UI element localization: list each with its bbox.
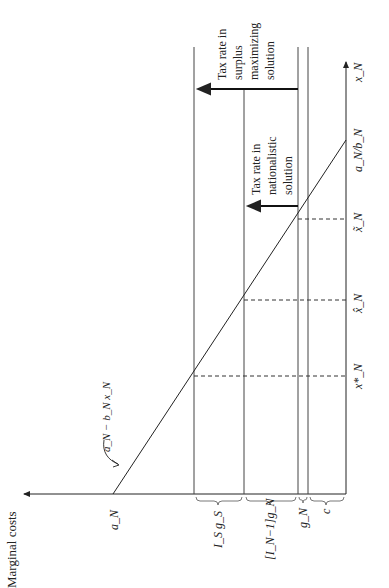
- c-label: c: [319, 508, 333, 514]
- is-gs-label: I_S g_S: [211, 511, 225, 549]
- surplus-annotation: Tax rate in surplus maximizing solution: [215, 23, 277, 80]
- intercept-label: a_N: [107, 509, 121, 530]
- curve-label: a_N − b_N x_N: [100, 381, 112, 452]
- x-tilde-label: x̃_N: [351, 212, 365, 233]
- svg-text:Tax rate in: Tax rate in: [249, 144, 263, 195]
- gn-label: g_N: [296, 507, 310, 528]
- svg-text:maximizing: maximizing: [247, 23, 261, 80]
- in-gn-label: [I_N−1]g_N: [263, 498, 277, 560]
- x-star-label: x*_N: [351, 363, 365, 390]
- svg-text:Tax rate in: Tax rate in: [215, 29, 229, 80]
- svg-text:solution: solution: [263, 41, 277, 80]
- x-hat-label: x̂_N: [351, 293, 365, 314]
- nationalistic-annotation: Tax rate in nationalistic solution: [249, 136, 295, 195]
- brace-c: [310, 497, 344, 505]
- x-axis-label: x_N: [351, 62, 365, 83]
- marginal-cost-diagram: Marginal costs a_N a_N − b_N x_N I_S g_S…: [0, 0, 389, 588]
- svg-text:surplus: surplus: [231, 45, 245, 80]
- x-intercept-label: a_N/b_N: [351, 128, 365, 172]
- svg-text:solution: solution: [281, 156, 295, 195]
- brace-gN: [299, 497, 307, 503]
- svg-text:nationalistic: nationalistic: [265, 136, 279, 195]
- y-axis-label: Marginal costs: [4, 511, 19, 588]
- marginal-benefit-curve: [113, 140, 346, 494]
- brace-IS-gS: [196, 497, 242, 505]
